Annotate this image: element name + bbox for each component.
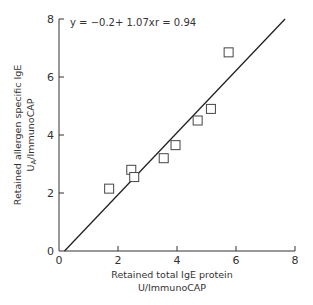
- y-axis-title-line1: Retained allergen specific IgE: [12, 65, 23, 205]
- plot-area: 0246802468y = −0.2+ 1.07xr = 0.94Retaine…: [12, 13, 299, 293]
- data-point-square: [224, 48, 233, 57]
- data-point-square: [193, 116, 202, 125]
- data-point-square: [105, 184, 114, 193]
- y-tick-label: 4: [47, 129, 54, 142]
- data-point-square: [159, 154, 168, 163]
- x-tick-label: 8: [292, 254, 299, 267]
- x-tick-label: 6: [233, 254, 240, 267]
- scatter-chart: 0246802468y = −0.2+ 1.07xr = 0.94Retaine…: [0, 0, 313, 305]
- x-tick-label: 4: [174, 254, 181, 267]
- data-point-square: [206, 104, 215, 113]
- regression-equation: y = −0.2+ 1.07x: [70, 17, 155, 28]
- data-point-square: [171, 141, 180, 150]
- y-tick-label: 8: [47, 13, 54, 26]
- x-tick-label: 2: [115, 254, 122, 267]
- y-tick-label: 0: [47, 245, 54, 258]
- y-tick-label: 6: [47, 71, 54, 84]
- y-tick-label: 2: [47, 187, 54, 200]
- data-point-square: [130, 173, 139, 182]
- y-axis-title-line2: UA/ImmunoCAP: [25, 98, 38, 171]
- x-tick-label: 0: [56, 254, 63, 267]
- x-axis-title-line2: U/ImmunoCAP: [138, 282, 206, 293]
- x-axis-title-line1: Retained total IgE protein: [111, 269, 233, 280]
- regression-line: [65, 19, 286, 251]
- correlation-coefficient: r = 0.94: [155, 17, 196, 28]
